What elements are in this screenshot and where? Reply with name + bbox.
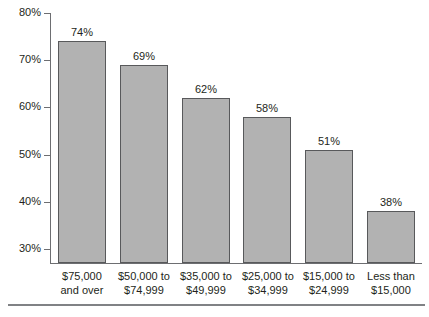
y-axis-tick-label: 60% — [1, 101, 41, 112]
bar-value-label: 38% — [380, 197, 402, 208]
bar-rect[interactable] — [182, 98, 230, 263]
category-label-line2: $34,999 — [237, 284, 299, 298]
bar-value-label: 69% — [133, 51, 155, 62]
footer-divider — [8, 304, 425, 306]
y-axis-tick-mark — [44, 202, 50, 203]
bar-column[interactable]: 62% — [182, 98, 230, 263]
category-label-line1: $25,000 to — [237, 270, 299, 284]
category-label-line2: and over — [51, 284, 113, 298]
y-axis-tick-label: 70% — [1, 54, 41, 65]
bar-rect[interactable] — [367, 211, 415, 263]
bar-column[interactable]: 74% — [58, 41, 106, 263]
bar-rect[interactable] — [58, 41, 106, 263]
x-axis-category-label: $50,000 to$74,999 — [113, 270, 175, 297]
bar-rect[interactable] — [120, 65, 168, 263]
category-label-line2: $49,999 — [175, 284, 237, 298]
x-axis-line — [50, 263, 422, 264]
bar-column[interactable]: 38% — [367, 211, 415, 263]
bar-value-label: 74% — [71, 27, 93, 38]
category-label-line1: Less than — [360, 270, 422, 284]
bar-column[interactable]: 58% — [243, 117, 291, 263]
x-axis-category-label: Less than$15,000 — [360, 270, 422, 297]
category-label-line1: $15,000 to — [298, 270, 360, 284]
bar-column[interactable]: 69% — [120, 65, 168, 263]
bar-rect[interactable] — [243, 117, 291, 263]
y-axis-tick-label: 80% — [1, 7, 41, 18]
category-label-line2: $24,999 — [298, 284, 360, 298]
y-axis-tick-label: 50% — [1, 149, 41, 160]
y-axis-line — [50, 13, 51, 264]
category-label-line1: $75,000 — [51, 270, 113, 284]
x-axis-category-label: $35,000 to$49,999 — [175, 270, 237, 297]
category-label-line1: $35,000 to — [175, 270, 237, 284]
y-axis-tick-mark — [44, 155, 50, 156]
bar-chart-figure: 80%70%60%50%40%30% 74%$75,000and over69%… — [0, 0, 429, 317]
x-axis-category-label: $25,000 to$34,999 — [237, 270, 299, 297]
bar-value-label: 62% — [195, 84, 217, 95]
bar-value-label: 51% — [318, 136, 340, 147]
y-axis-tick-mark — [44, 60, 50, 61]
x-axis-category-label: $15,000 to$24,999 — [298, 270, 360, 297]
bar-value-label: 58% — [256, 103, 278, 114]
bar-rect[interactable] — [305, 150, 353, 263]
category-label-line1: $50,000 to — [113, 270, 175, 284]
y-axis-tick-mark — [44, 249, 50, 250]
x-axis-category-label: $75,000and over — [51, 270, 113, 297]
bar-column[interactable]: 51% — [305, 150, 353, 263]
y-axis-tick-label: 30% — [1, 243, 41, 254]
y-axis-tick-label: 40% — [1, 196, 41, 207]
category-label-line2: $74,999 — [113, 284, 175, 298]
category-label-line2: $15,000 — [360, 284, 422, 298]
y-axis-tick-mark — [44, 13, 50, 14]
plot-area: 80%70%60%50%40%30% 74%$75,000and over69%… — [0, 0, 429, 317]
y-axis-tick-mark — [44, 107, 50, 108]
